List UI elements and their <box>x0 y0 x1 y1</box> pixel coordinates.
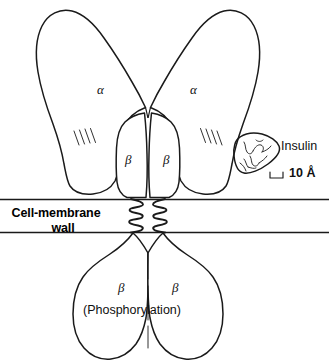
transmembrane-helix-right <box>153 199 167 233</box>
beta-label-lower-right: β <box>172 280 178 295</box>
cell-membrane-label-line2: wall <box>4 221 108 235</box>
insulin-molecule-icon <box>234 133 280 173</box>
scale-label: 10 Å <box>289 166 315 181</box>
alpha-label-right: α <box>190 82 197 97</box>
alpha-stem-right <box>148 108 150 118</box>
beta-subunit-lower-left-shape <box>73 233 148 359</box>
phosphorylation-label: (Phosphorylation) <box>83 303 181 318</box>
transmembrane-helix-left <box>129 199 143 233</box>
beta-label-upper-left: β <box>125 152 131 167</box>
alpha-label-left: α <box>97 82 104 97</box>
cell-membrane-label-line1: Cell-membrane <box>11 206 100 220</box>
cell-membrane-wall-label: Cell-membrane wall <box>4 203 108 235</box>
insulin-label: Insulin <box>281 139 317 154</box>
beta-subunit-lower-right-shape <box>148 233 223 359</box>
beta-label-upper-right: β <box>163 152 169 167</box>
beta-label-lower-left: β <box>118 280 124 295</box>
scale-bar-icon <box>270 172 283 178</box>
alpha-stem-left <box>146 108 148 118</box>
insulin-receptor-figure: α α β β β β (Phosphorylation) Insulin 10… <box>0 0 329 364</box>
